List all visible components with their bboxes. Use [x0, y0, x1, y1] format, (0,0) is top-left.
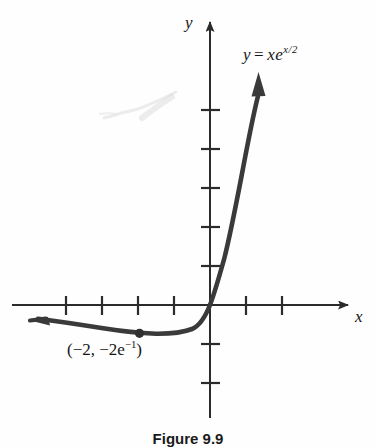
point-y-base: −2e [99, 340, 125, 359]
equation-lhs: y [243, 45, 251, 64]
minimum-point-dot [135, 329, 144, 338]
point-close-paren: ) [136, 340, 142, 359]
y-axis-label: y [185, 14, 193, 31]
curve-up-arrowhead [252, 72, 266, 97]
function-curve [30, 72, 266, 334]
curve-equation-label: y=xex/2 [243, 45, 298, 65]
figure-container: y x y=xex/2 (−2, −2e−1) Figure 9.9 [0, 0, 376, 447]
equation-rhs-base: xe [267, 45, 283, 64]
point-x-value: −2 [73, 340, 91, 359]
point-comma: , [91, 340, 95, 359]
equation-equals-sign: = [254, 45, 264, 64]
x-axis [12, 296, 348, 315]
equation-rhs-exponent: x/2 [283, 43, 298, 55]
x-axis-label: x [355, 308, 363, 325]
point-y-exponent: −1 [125, 338, 136, 350]
figure-caption: Figure 9.9 [0, 430, 376, 447]
graph-canvas [0, 0, 376, 447]
minimum-point-label: (−2, −2e−1) [67, 340, 142, 360]
y-axis [201, 22, 220, 418]
